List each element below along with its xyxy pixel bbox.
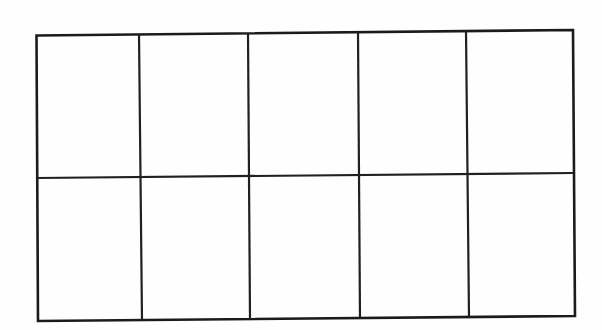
grid-cell-r1c4[interactable] — [360, 33, 465, 173]
grid-cell-r1c1[interactable] — [38, 36, 138, 176]
diagram-canvas — [0, 0, 602, 330]
grid-cell-r2c4[interactable] — [361, 177, 466, 316]
grid-cell-r1c5[interactable] — [468, 32, 572, 172]
grid-cell-r2c2[interactable] — [142, 179, 248, 318]
grid-cell-r2c1[interactable] — [39, 180, 139, 319]
grid-cell-r1c3[interactable] — [250, 34, 357, 174]
grid-diagram — [0, 0, 602, 330]
grid-cell-r2c3[interactable] — [251, 178, 358, 317]
grid-cell-r2c5[interactable] — [470, 176, 574, 315]
grid-cell-r1c2[interactable] — [141, 35, 247, 175]
